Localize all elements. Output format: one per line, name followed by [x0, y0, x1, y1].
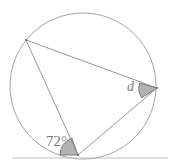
chord-top-left-to-right [26, 40, 157, 88]
vertex-dot-top-left [25, 39, 27, 41]
geometry-canvas [0, 0, 169, 165]
chord-bottom-to-right [78, 88, 157, 155]
angle-label-d: d [127, 79, 134, 95]
vertex-dot-right [156, 87, 158, 89]
vertex-dot-bottom [77, 154, 79, 156]
geometry-figure: 72° d [0, 0, 169, 165]
angle-label-72: 72° [46, 133, 67, 150]
circle-shape [10, 13, 156, 159]
